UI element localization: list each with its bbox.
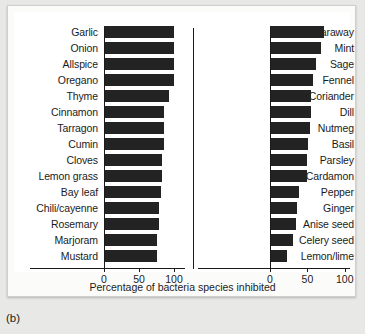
bar-row: Lemon/lime [194,248,354,264]
bar [104,154,162,166]
bar [104,202,159,214]
bar-track [104,136,190,152]
bar-track [270,248,354,264]
bar-row: Anise seed [194,216,354,232]
bar [104,74,174,86]
bar-row: Caraway [194,24,354,40]
x-tick-mark [345,268,346,272]
bar-row: Mint [194,40,354,56]
bar-track [104,152,190,168]
bar-track [270,56,354,72]
bar-category-label: Onion [70,41,98,55]
bar [270,218,296,230]
left-bar-panel: GarlicOnionAllspiceOreganoThymeCinnamonT… [12,24,190,262]
bar-row: Marjoram [12,232,190,248]
bar [270,138,308,150]
bar-track [270,200,354,216]
bar-row: Lemon grass [12,168,190,184]
left-zero-axis-line [104,28,105,269]
bar-row: Cardamon [194,168,354,184]
bar-category-label: Lemon grass [38,169,98,183]
bar-track [104,200,190,216]
bar-track [270,152,354,168]
bar [270,250,287,262]
bar-row: Dill [194,104,354,120]
right-bar-rows: CarawayMintSageFennelCorianderDillNutmeg… [194,24,354,264]
bar-category-label: Garlic [71,25,98,39]
bar-track [104,24,190,40]
bar-category-label: Allspice [63,57,98,71]
bar-track [104,88,190,104]
bar-track [270,136,354,152]
bar [270,234,293,246]
bar [270,26,324,38]
bar-row: Garlic [12,24,190,40]
bar-track [104,232,190,248]
bar [104,234,157,246]
bar-track [104,168,190,184]
bar-row: Thyme [12,88,190,104]
bar [270,186,299,198]
bar-row: Sage [194,56,354,72]
x-tick-mark [174,268,175,272]
x-tick-mark [104,268,105,272]
bar-track [270,72,354,88]
bar-row: Chili/cayenne [12,200,190,216]
x-axis-title: Percentage of bacteria species inhibited [8,281,357,293]
bar-row: Pepper [194,184,354,200]
bar-row: Bay leaf [12,184,190,200]
bar-category-label: Marjoram [54,233,98,247]
bar [270,170,307,182]
bar-row: Fennel [194,72,354,88]
bar [270,42,321,54]
bar [270,90,311,102]
bar-track [104,248,190,264]
bar-category-label: Chili/cayenne [36,201,98,215]
bar [104,90,169,102]
bar-row: Cloves [12,152,190,168]
bar-category-label: Cinnamon [51,105,98,119]
bar [104,106,164,118]
bar [104,170,162,182]
bar-track [270,120,354,136]
bar-track [270,104,354,120]
bar-row: Allspice [12,56,190,72]
bar-row: Mustard [12,248,190,264]
bar-track [104,40,190,56]
bar [104,138,164,150]
bar-track [104,184,190,200]
bar-row: Nutmeg [194,120,354,136]
bar-track [270,168,354,184]
left-bar-rows: GarlicOnionAllspiceOreganoThymeCinnamonT… [12,24,190,264]
bar-row: Oregano [12,72,190,88]
bar-track [104,104,190,120]
bar-category-label: Tarragon [57,121,98,135]
bar [104,122,164,134]
bar [104,26,174,38]
bar-category-label: Mustard [61,249,98,263]
right-bar-panel: CarawayMintSageFennelCorianderDillNutmeg… [194,24,354,262]
x-tick-mark [139,268,140,272]
bar-row: Celery seed [194,232,354,248]
figure-panel: GarlicOnionAllspiceOreganoThymeCinnamonT… [7,5,356,297]
bar [104,250,157,262]
bar-track [104,56,190,72]
bar-row: Cinnamon [12,104,190,120]
bar-track [270,40,354,56]
bar-row: Rosemary [12,216,190,232]
bar [104,42,174,54]
bar-category-label: Thyme [66,89,98,103]
x-tick-mark [270,268,271,272]
bar [270,202,297,214]
bar-track [270,88,354,104]
bar-row: Cumin [12,136,190,152]
bar-category-label: Cloves [67,153,99,167]
bar-track [270,184,354,200]
x-tick-mark [307,268,308,272]
bar [104,58,174,70]
bar-track [270,24,354,40]
bar-track [104,120,190,136]
bar [270,58,316,70]
bar-track [270,216,354,232]
bar [104,186,161,198]
